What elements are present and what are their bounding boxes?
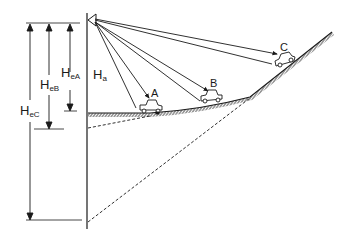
label-hec-sub: eC: [29, 110, 39, 119]
light-rays: [95, 19, 277, 108]
label-vehicle-c: C: [280, 42, 288, 53]
label-ha-sub: a: [102, 74, 106, 83]
vehicle-b: [201, 90, 222, 103]
dimension-extension-lines: [26, 23, 82, 220]
label-vehicle-a: A: [151, 88, 158, 99]
label-hec-main: H: [20, 103, 29, 118]
label-hec: HeC: [20, 104, 40, 119]
label-ha: Ha: [93, 68, 107, 83]
diagram-canvas: HeA HeB HeC Ha A B C: [0, 0, 350, 240]
label-hea-sub: eA: [70, 72, 80, 81]
luminaire-icon: [88, 14, 96, 26]
label-hea-main: H: [61, 65, 70, 80]
label-heb-sub: eB: [49, 84, 59, 93]
label-heb: HeB: [40, 78, 59, 93]
dimension-arrow-hec: [27, 24, 33, 220]
vehicle-a: [140, 100, 162, 114]
label-heb-main: H: [40, 77, 49, 92]
label-ha-main: H: [93, 67, 102, 82]
label-hea: HeA: [61, 66, 80, 81]
label-vehicle-b: B: [210, 78, 217, 89]
